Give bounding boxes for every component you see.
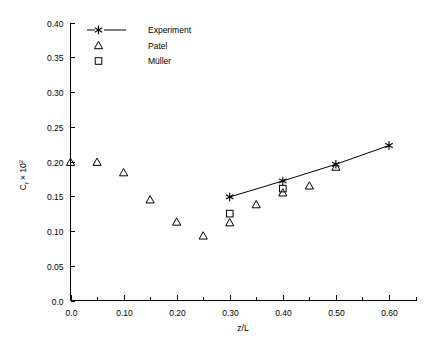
y-tick-label: 0.35: [47, 53, 64, 63]
y-title-mid: × 10: [18, 163, 28, 182]
x-tick-label: 0.60: [381, 308, 398, 318]
y-tick-label: 0.15: [47, 192, 64, 202]
legend-label-mller: Müller: [148, 56, 171, 66]
x-tick-label: 0.30: [222, 308, 239, 318]
x-tick-label: 0.10: [116, 308, 133, 318]
y-tick-label: 0.40: [47, 19, 64, 29]
chart-background: [0, 0, 442, 350]
chart-figure: 0.00.050.100.150.200.250.300.350.40 0.00…: [0, 0, 442, 350]
y-tick-label: 0.30: [47, 88, 64, 98]
x-axis-title: z/L: [237, 323, 249, 333]
x-tick-label: 0.50: [328, 308, 345, 318]
y-tick-label: 0.0: [52, 297, 64, 307]
y-axis-title-text: Cf × 102: [18, 159, 30, 190]
y-tick-label: 0.05: [47, 262, 64, 272]
legend-label-experiment: Experiment: [148, 25, 192, 35]
x-tick-label: 0.40: [275, 308, 292, 318]
skin-friction-chart: 0.00.050.100.150.200.250.300.350.40 0.00…: [0, 0, 442, 350]
y-tick-label: 0.10: [47, 227, 64, 237]
y-tick-label: 0.20: [47, 158, 64, 168]
y-tick-label: 0.25: [47, 123, 64, 133]
y-axis-tick-labels: 0.00.050.100.150.200.250.300.350.40: [47, 19, 64, 307]
x-tick-label: 0.0: [66, 308, 78, 318]
y-axis-title: Cf × 102: [18, 159, 30, 190]
x-tick-label: 0.20: [169, 308, 186, 318]
legend-label-patel: Patel: [148, 41, 167, 51]
x-axis-title-text: z/L: [237, 323, 249, 333]
